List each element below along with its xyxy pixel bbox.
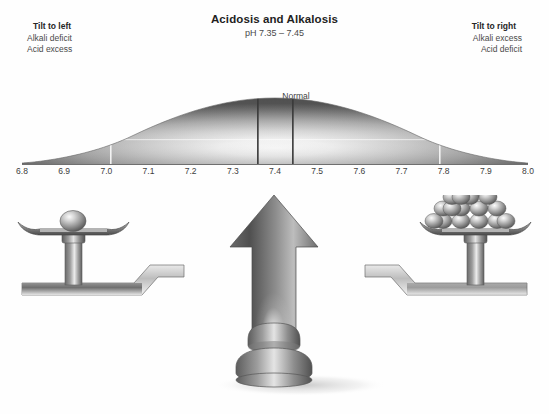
tilt-left-line2: Acid excess (27, 44, 72, 56)
right-pan-assembly (420, 195, 531, 285)
alkali-ball-pyramid (425, 195, 515, 229)
tilt-right-heading: Tilt to right (472, 21, 522, 33)
ph-tick-6-9: 6.9 (49, 166, 79, 176)
ph-tick-7-4: 7.4 (260, 166, 290, 176)
tilt-right-block: Tilt to right Alkali excess Acid deficit (472, 21, 522, 56)
ph-tick-7-3: 7.3 (218, 166, 248, 176)
beam-right (365, 265, 527, 295)
ph-tick-7-9: 7.9 (471, 166, 501, 176)
diagram-canvas: Tilt to left Alkali deficit Acid excess … (0, 0, 549, 414)
ph-tick-7-8: 7.8 (429, 166, 459, 176)
ph-tick-7-5: 7.5 (302, 166, 332, 176)
ph-tick-7-6: 7.6 (344, 166, 374, 176)
ph-tick-7-0: 7.0 (91, 166, 121, 176)
ph-tick-7-1: 7.1 (134, 166, 164, 176)
ph-tick-7-2: 7.2 (176, 166, 206, 176)
tilt-right-line2: Acid deficit (472, 44, 522, 56)
pedestal-base (236, 323, 312, 387)
ph-axis-line (22, 164, 528, 165)
ph-scale: Normal (22, 92, 528, 184)
ph-tick-8-0: 8.0 (513, 166, 543, 176)
page-title: Acidosis and Alkalosis (0, 13, 549, 25)
balance-scale-graphic: 1part acid 20 parts alkali (0, 195, 549, 395)
left-pan-assembly (18, 211, 129, 286)
ph-tick-labels: 6.86.97.07.17.27.37.47.57.67.77.87.98.0 (22, 166, 528, 182)
tilt-right-line1: Alkali excess (472, 33, 522, 45)
beam-left (22, 265, 184, 295)
ph-tick-6-8: 6.8 (7, 166, 37, 176)
ph-tick-7-7: 7.7 (387, 166, 417, 176)
page-subtitle: pH 7.35 – 7.45 (0, 28, 549, 38)
title-block: Acidosis and Alkalosis pH 7.35 – 7.45 (0, 13, 549, 38)
